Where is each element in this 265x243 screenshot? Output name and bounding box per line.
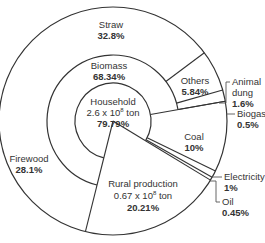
label-firewood-pct: 28.1% bbox=[16, 164, 43, 175]
label-household: Household bbox=[90, 96, 135, 107]
label-animal-dung-1: Animal bbox=[232, 76, 261, 87]
label-coal: Coal bbox=[184, 131, 204, 142]
label-others: Others bbox=[181, 75, 210, 86]
label-others-pct: 5.84% bbox=[182, 86, 209, 97]
label-straw-pct: 32.8% bbox=[98, 30, 125, 41]
label-firewood: Firewood bbox=[9, 153, 48, 164]
label-electricity: Electricity bbox=[224, 171, 265, 182]
label-rural-production: Rural production bbox=[108, 178, 178, 189]
label-animal-dung-2: dung bbox=[232, 87, 253, 98]
sunburst-chart: Household 2.6 x 108 ton 79.79% Rural pro… bbox=[0, 0, 265, 243]
label-biogas-pct: 0.5% bbox=[237, 119, 259, 130]
label-household-pct: 79.79% bbox=[97, 118, 130, 129]
label-electricity-pct: 1% bbox=[224, 182, 238, 193]
label-household-detail: 2.6 x 108 ton bbox=[86, 107, 139, 118]
label-biomass-pct: 68.34% bbox=[93, 71, 126, 82]
label-rural-pct: 20.21% bbox=[127, 202, 160, 213]
label-oil-pct: 0.45% bbox=[222, 207, 249, 218]
boundary-firewood-rural bbox=[85, 121, 113, 232]
label-rural-detail: 0.67 x 108 ton bbox=[114, 190, 172, 201]
label-coal-pct: 10% bbox=[184, 142, 204, 153]
label-straw: Straw bbox=[99, 19, 123, 30]
label-biogas: Biogas bbox=[237, 108, 265, 119]
boundary-animal-dung bbox=[178, 101, 225, 109]
label-biomass: Biomass bbox=[91, 60, 128, 71]
leader-oil bbox=[210, 181, 220, 202]
label-oil: Oil bbox=[222, 196, 234, 207]
boundary-coal bbox=[147, 138, 215, 171]
